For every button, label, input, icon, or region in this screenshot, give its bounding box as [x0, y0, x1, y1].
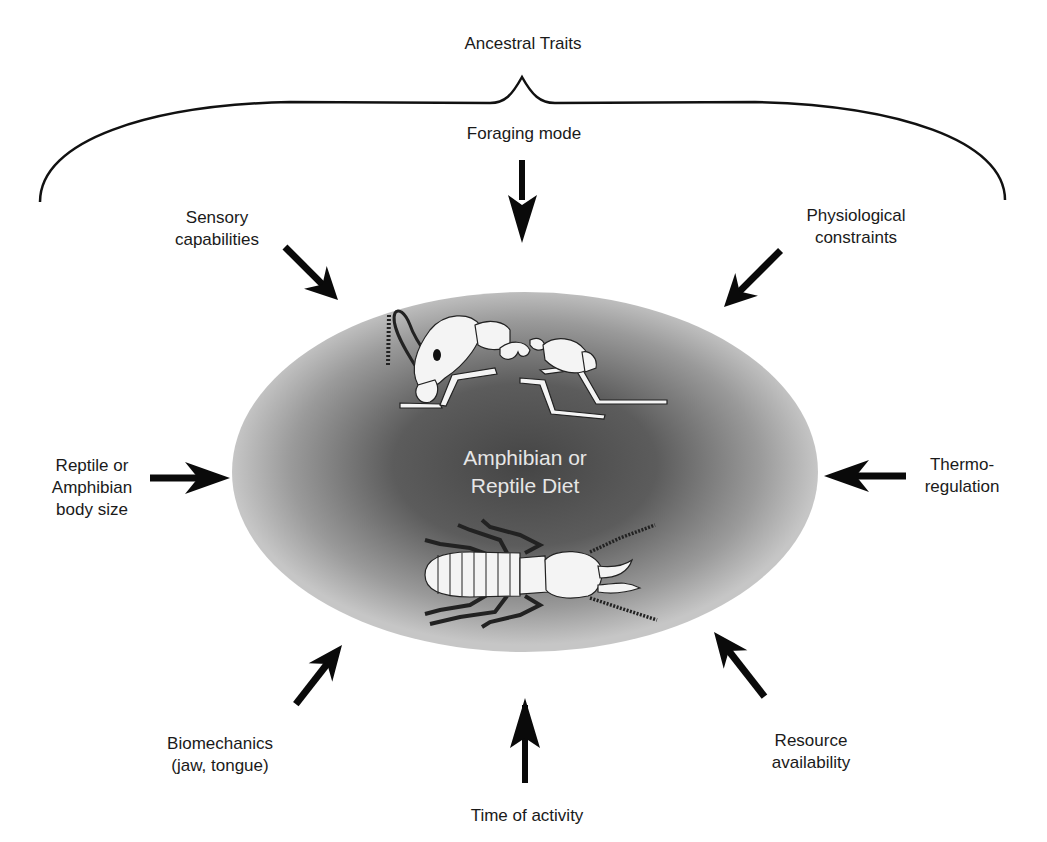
ancestral-traits-title: Ancestral Traits: [464, 33, 581, 55]
label-resource-availability: Resource availability: [772, 730, 850, 774]
label-foraging-mode: Foraging mode: [467, 123, 581, 145]
label-body-size: Reptile or Amphibian body size: [52, 455, 132, 521]
label-physiological-constraints: Physiological constraints: [806, 205, 905, 249]
label-sensory-capabilities: Sensory capabilities: [175, 207, 259, 251]
center-diet-label: Amphibian or Reptile Diet: [463, 444, 587, 500]
label-biomechanics: Biomechanics (jaw, tongue): [167, 733, 273, 777]
label-time-of-activity: Time of activity: [471, 805, 584, 827]
label-thermoregulation: Thermo- regulation: [925, 454, 1000, 498]
